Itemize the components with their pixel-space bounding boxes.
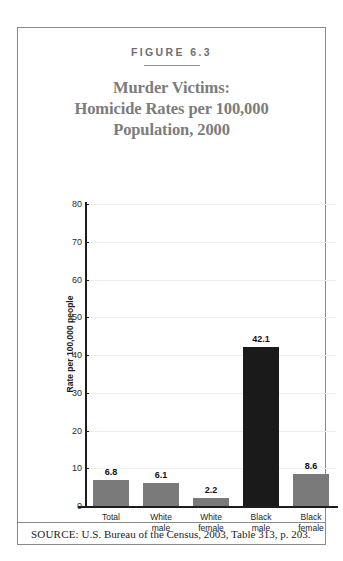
y-axis-tick-mark xyxy=(85,317,89,318)
bar-value-label: 2.2 xyxy=(193,485,229,495)
y-axis-tick-mark xyxy=(85,393,89,394)
figure-title: Murder Victims: Homicide Rates per 100,0… xyxy=(32,77,311,140)
bar-chart: Rate per 100,000 people 0102030405060708… xyxy=(18,171,325,516)
y-axis-tick-label: 80 xyxy=(56,199,82,209)
bar[interactable] xyxy=(93,480,129,506)
figure-title-line-3: Population, 2000 xyxy=(32,119,311,140)
x-axis-category-line: Black xyxy=(286,512,336,523)
x-axis-category-line: Total xyxy=(86,512,136,523)
x-axis-category-line: White xyxy=(186,512,236,523)
y-axis-tick-label: 30 xyxy=(56,388,82,398)
y-axis-tick-label: 10 xyxy=(56,463,82,473)
y-axis-tick-label: 60 xyxy=(56,275,82,285)
source-lead: SOURCE: xyxy=(31,528,79,540)
figure-card: FIGURE 6.3 Murder Victims: Homicide Rate… xyxy=(17,27,326,545)
y-axis-tick-labels: 01020304050607080 xyxy=(52,204,82,506)
bar-value-label: 8.6 xyxy=(293,461,329,471)
y-axis-tick-label: 40 xyxy=(56,350,82,360)
bar-group: 42.1 xyxy=(243,204,279,506)
figure-title-line-1: Murder Victims: xyxy=(32,77,311,98)
source-note: SOURCE: U.S. Bureau of the Census, 2003,… xyxy=(31,528,317,540)
y-axis-tick-mark xyxy=(85,468,89,469)
figure-divider xyxy=(144,65,200,66)
y-axis-tick-mark xyxy=(85,280,89,281)
y-axis-tick-label: 20 xyxy=(56,426,82,436)
y-axis-tick-label: 50 xyxy=(56,312,82,322)
y-axis-tick-mark xyxy=(85,506,89,507)
x-axis-category-label: Total xyxy=(86,512,136,523)
bar-group: 6.1 xyxy=(143,204,179,506)
bar-group: 8.6 xyxy=(293,204,329,506)
y-axis-tick-mark xyxy=(85,355,89,356)
plot-area: 6.86.12.242.18.6 xyxy=(86,204,336,506)
source-divider xyxy=(18,522,325,523)
y-axis-tick-mark xyxy=(85,242,89,243)
y-axis-tick-mark xyxy=(85,204,89,205)
bar-value-label: 6.1 xyxy=(143,470,179,480)
figure-title-line-2: Homicide Rates per 100,000 xyxy=(32,98,311,119)
bar-group: 2.2 xyxy=(193,204,229,506)
y-axis-tick-label: 70 xyxy=(56,237,82,247)
bar[interactable] xyxy=(243,347,279,506)
bar-value-label: 6.8 xyxy=(93,467,129,477)
source-text: U.S. Bureau of the Census, 2003, Table 3… xyxy=(82,528,311,540)
figure-number: FIGURE 6.3 xyxy=(18,46,325,58)
bar-group: 6.8 xyxy=(93,204,129,506)
bar-value-label: 42.1 xyxy=(243,334,279,344)
x-axis-line xyxy=(78,506,338,508)
bar[interactable] xyxy=(143,483,179,506)
x-axis-category-line: Black xyxy=(236,512,286,523)
bar[interactable] xyxy=(293,474,329,506)
x-axis-category-line: White xyxy=(136,512,186,523)
bar[interactable] xyxy=(193,498,229,506)
y-axis-tick-mark xyxy=(85,431,89,432)
